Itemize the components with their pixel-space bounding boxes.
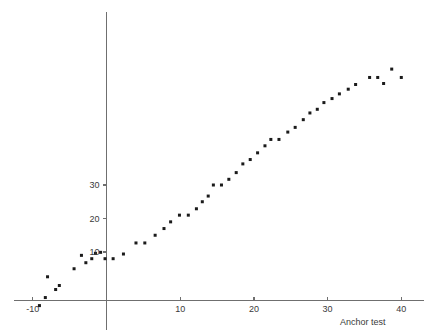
y-tick-label: 10 (81, 248, 100, 257)
data-point (143, 241, 146, 244)
data-point (235, 171, 238, 174)
data-point (154, 234, 157, 237)
data-point (46, 275, 49, 278)
data-point (187, 214, 190, 217)
scatter-plot-figure: -1010203040102030 Anchor test (0, 0, 432, 336)
data-point (249, 158, 252, 161)
data-point (220, 184, 223, 187)
data-point (302, 118, 305, 121)
data-point (390, 68, 393, 71)
data-point (322, 101, 325, 104)
data-point (195, 207, 198, 210)
data-point (294, 126, 297, 129)
data-point (286, 131, 289, 134)
data-point (134, 241, 137, 244)
data-point (90, 257, 93, 260)
plot-canvas (0, 0, 432, 336)
data-point (331, 97, 334, 100)
data-point (201, 200, 204, 203)
data-point (54, 288, 57, 291)
data-point (99, 251, 102, 254)
data-point (212, 184, 215, 187)
data-point (354, 83, 357, 86)
x-tick-label: 40 (396, 305, 406, 314)
data-point (368, 76, 371, 79)
data-point (400, 76, 403, 79)
data-point (58, 284, 61, 287)
x-tick-label: 20 (249, 305, 259, 314)
x-tick-label: -10 (26, 305, 39, 314)
data-point (178, 214, 181, 217)
data-point (382, 82, 385, 85)
data-point (277, 138, 280, 141)
data-point (112, 257, 115, 260)
data-point (338, 92, 341, 95)
axes-group (14, 12, 424, 330)
data-point (263, 144, 266, 147)
data-point (207, 195, 210, 198)
data-point (269, 138, 272, 141)
data-point (73, 267, 76, 270)
data-point (227, 178, 230, 181)
data-point (308, 111, 311, 114)
x-tick-label: 10 (175, 305, 185, 314)
data-point (347, 88, 350, 91)
data-point (44, 296, 47, 299)
data-point (162, 227, 165, 230)
y-tick-label: 30 (81, 181, 100, 190)
data-point (84, 261, 87, 264)
x-axis-title: Anchor test (340, 318, 386, 327)
data-point (256, 151, 259, 154)
data-point (376, 76, 379, 79)
y-tick-label: 20 (81, 214, 100, 223)
data-point (169, 220, 172, 223)
data-point (241, 162, 244, 165)
data-point (316, 108, 319, 111)
data-point (104, 257, 107, 260)
data-point (122, 253, 125, 256)
x-tick-label: 30 (323, 305, 333, 314)
